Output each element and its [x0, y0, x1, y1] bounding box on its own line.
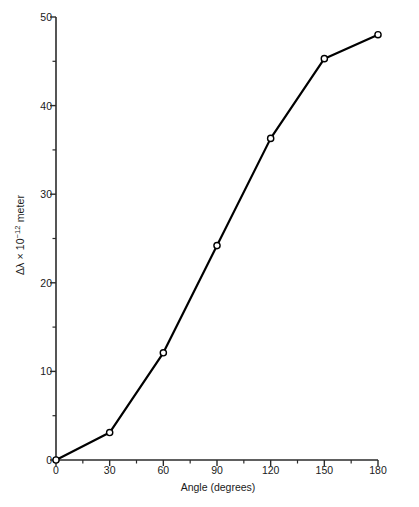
data-point-marker — [321, 56, 327, 62]
x-tick-label: 150 — [316, 464, 334, 476]
data-point-marker — [160, 350, 166, 356]
data-point-marker — [53, 457, 59, 463]
data-markers — [53, 32, 381, 463]
x-tick-label: 60 — [157, 464, 169, 476]
x-tick-label: 30 — [104, 464, 116, 476]
data-point-marker — [375, 32, 381, 38]
plot-area — [0, 0, 419, 507]
x-axis-tick-labels: 0306090120150180 — [0, 464, 419, 482]
axis-ticks — [50, 17, 378, 466]
chart-figure: Δλ × 10−12 meter 01020304050 03060901201… — [0, 0, 419, 507]
data-point-marker — [214, 242, 220, 248]
x-tick-label: 120 — [262, 464, 280, 476]
axes — [56, 17, 378, 460]
x-axis-label: Angle (degrees) — [56, 481, 380, 493]
data-point-marker — [268, 135, 274, 141]
data-point-marker — [107, 429, 113, 435]
x-tick-label: 90 — [211, 464, 223, 476]
x-tick-label: 0 — [53, 464, 59, 476]
x-tick-label: 180 — [369, 464, 387, 476]
